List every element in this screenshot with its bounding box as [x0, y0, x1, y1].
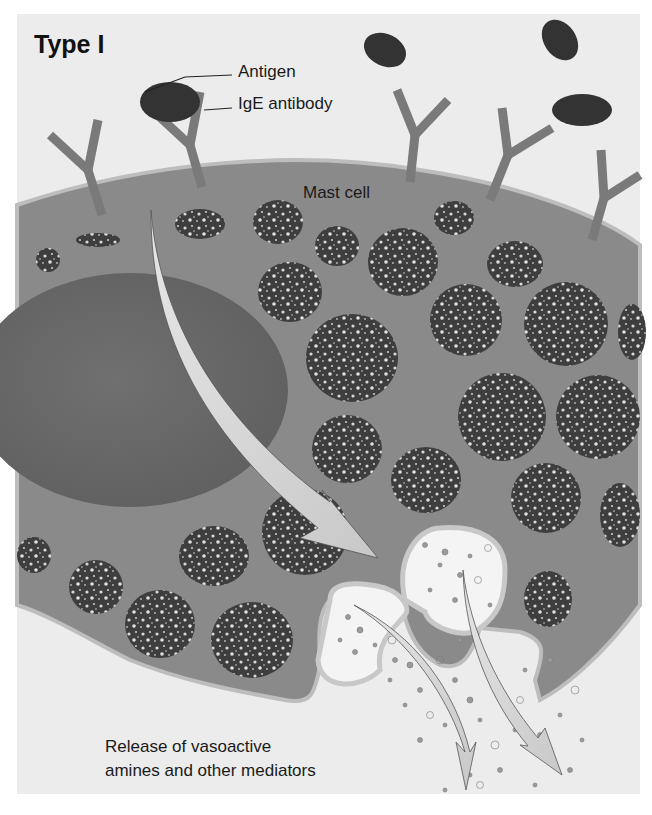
label-release: Release of vasoactive amines and other m… [105, 735, 316, 783]
label-antigen: Antigen [238, 62, 296, 82]
label-release-line2: amines and other mediators [105, 759, 316, 783]
label-release-line1: Release of vasoactive [105, 735, 316, 759]
label-mast-cell: Mast cell [303, 183, 370, 203]
type-i-hypersensitivity-diagram [0, 0, 652, 815]
antigen-bound [140, 82, 200, 122]
label-ige-antibody: IgE antibody [238, 94, 333, 114]
figure-title: Type I [34, 30, 104, 59]
antigen-bound-2 [552, 94, 612, 126]
